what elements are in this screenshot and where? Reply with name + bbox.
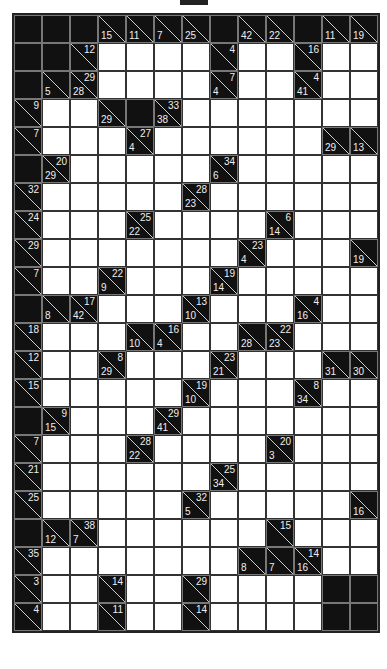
entry-cell[interactable] bbox=[266, 155, 294, 183]
entry-cell[interactable] bbox=[350, 435, 378, 463]
entry-cell[interactable] bbox=[238, 379, 266, 407]
entry-cell[interactable] bbox=[350, 43, 378, 71]
entry-cell[interactable] bbox=[210, 99, 238, 127]
entry-cell[interactable] bbox=[266, 603, 294, 631]
entry-cell[interactable] bbox=[154, 575, 182, 603]
entry-cell[interactable] bbox=[126, 575, 154, 603]
entry-cell[interactable] bbox=[98, 435, 126, 463]
entry-cell[interactable] bbox=[98, 407, 126, 435]
entry-cell[interactable] bbox=[42, 211, 70, 239]
entry-cell[interactable] bbox=[350, 407, 378, 435]
entry-cell[interactable] bbox=[266, 463, 294, 491]
entry-cell[interactable] bbox=[294, 267, 322, 295]
entry-cell[interactable] bbox=[294, 575, 322, 603]
entry-cell[interactable] bbox=[322, 43, 350, 71]
entry-cell[interactable] bbox=[238, 519, 266, 547]
entry-cell[interactable] bbox=[126, 351, 154, 379]
entry-cell[interactable] bbox=[154, 43, 182, 71]
entry-cell[interactable] bbox=[182, 71, 210, 99]
entry-cell[interactable] bbox=[266, 99, 294, 127]
entry-cell[interactable] bbox=[294, 463, 322, 491]
entry-cell[interactable] bbox=[294, 211, 322, 239]
entry-cell[interactable] bbox=[98, 155, 126, 183]
entry-cell[interactable] bbox=[322, 547, 350, 575]
entry-cell[interactable] bbox=[350, 183, 378, 211]
entry-cell[interactable] bbox=[238, 211, 266, 239]
entry-cell[interactable] bbox=[42, 127, 70, 155]
entry-cell[interactable] bbox=[210, 435, 238, 463]
entry-cell[interactable] bbox=[210, 519, 238, 547]
entry-cell[interactable] bbox=[238, 183, 266, 211]
entry-cell[interactable] bbox=[182, 99, 210, 127]
entry-cell[interactable] bbox=[126, 71, 154, 99]
entry-cell[interactable] bbox=[210, 547, 238, 575]
entry-cell[interactable] bbox=[98, 127, 126, 155]
entry-cell[interactable] bbox=[322, 519, 350, 547]
entry-cell[interactable] bbox=[294, 183, 322, 211]
entry-cell[interactable] bbox=[70, 575, 98, 603]
entry-cell[interactable] bbox=[126, 603, 154, 631]
entry-cell[interactable] bbox=[266, 43, 294, 71]
entry-cell[interactable] bbox=[322, 407, 350, 435]
entry-cell[interactable] bbox=[350, 155, 378, 183]
entry-cell[interactable] bbox=[350, 547, 378, 575]
entry-cell[interactable] bbox=[70, 99, 98, 127]
entry-cell[interactable] bbox=[210, 575, 238, 603]
entry-cell[interactable] bbox=[154, 295, 182, 323]
entry-cell[interactable] bbox=[98, 519, 126, 547]
entry-cell[interactable] bbox=[294, 491, 322, 519]
entry-cell[interactable] bbox=[182, 43, 210, 71]
entry-cell[interactable] bbox=[42, 351, 70, 379]
entry-cell[interactable] bbox=[238, 491, 266, 519]
entry-cell[interactable] bbox=[42, 547, 70, 575]
entry-cell[interactable] bbox=[182, 547, 210, 575]
entry-cell[interactable] bbox=[42, 379, 70, 407]
entry-cell[interactable] bbox=[98, 211, 126, 239]
entry-cell[interactable] bbox=[210, 295, 238, 323]
entry-cell[interactable] bbox=[126, 463, 154, 491]
entry-cell[interactable] bbox=[182, 211, 210, 239]
entry-cell[interactable] bbox=[126, 183, 154, 211]
entry-cell[interactable] bbox=[238, 99, 266, 127]
entry-cell[interactable] bbox=[350, 295, 378, 323]
entry-cell[interactable] bbox=[70, 155, 98, 183]
entry-cell[interactable] bbox=[154, 239, 182, 267]
entry-cell[interactable] bbox=[42, 603, 70, 631]
entry-cell[interactable] bbox=[350, 323, 378, 351]
entry-cell[interactable] bbox=[154, 71, 182, 99]
entry-cell[interactable] bbox=[322, 155, 350, 183]
entry-cell[interactable] bbox=[70, 267, 98, 295]
entry-cell[interactable] bbox=[70, 603, 98, 631]
entry-cell[interactable] bbox=[322, 267, 350, 295]
entry-cell[interactable] bbox=[294, 407, 322, 435]
entry-cell[interactable] bbox=[182, 519, 210, 547]
entry-cell[interactable] bbox=[126, 519, 154, 547]
entry-cell[interactable] bbox=[42, 435, 70, 463]
entry-cell[interactable] bbox=[42, 239, 70, 267]
entry-cell[interactable] bbox=[350, 463, 378, 491]
entry-cell[interactable] bbox=[98, 295, 126, 323]
entry-cell[interactable] bbox=[154, 267, 182, 295]
entry-cell[interactable] bbox=[154, 127, 182, 155]
entry-cell[interactable] bbox=[322, 379, 350, 407]
entry-cell[interactable] bbox=[210, 603, 238, 631]
entry-cell[interactable] bbox=[294, 351, 322, 379]
entry-cell[interactable] bbox=[154, 379, 182, 407]
entry-cell[interactable] bbox=[294, 99, 322, 127]
entry-cell[interactable] bbox=[238, 43, 266, 71]
entry-cell[interactable] bbox=[98, 547, 126, 575]
entry-cell[interactable] bbox=[70, 547, 98, 575]
entry-cell[interactable] bbox=[70, 463, 98, 491]
entry-cell[interactable] bbox=[182, 463, 210, 491]
entry-cell[interactable] bbox=[154, 491, 182, 519]
entry-cell[interactable] bbox=[154, 155, 182, 183]
entry-cell[interactable] bbox=[154, 547, 182, 575]
entry-cell[interactable] bbox=[350, 211, 378, 239]
entry-cell[interactable] bbox=[210, 323, 238, 351]
entry-cell[interactable] bbox=[266, 407, 294, 435]
entry-cell[interactable] bbox=[182, 267, 210, 295]
entry-cell[interactable] bbox=[182, 435, 210, 463]
entry-cell[interactable] bbox=[98, 183, 126, 211]
entry-cell[interactable] bbox=[294, 519, 322, 547]
entry-cell[interactable] bbox=[238, 127, 266, 155]
